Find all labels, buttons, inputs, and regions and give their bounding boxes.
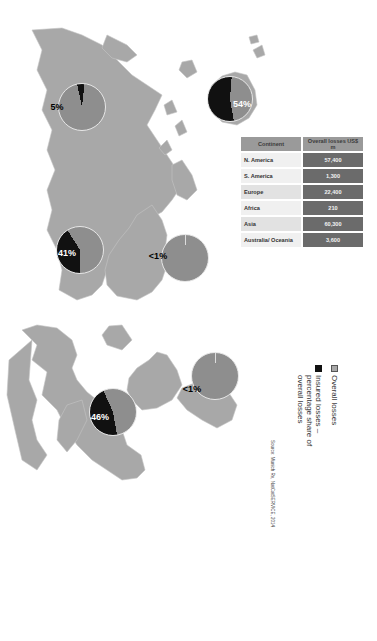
- table-row: Europe 22,400: [241, 185, 363, 199]
- source-note: Source: Munich Re, NatCatSERVICE, 2014: [270, 440, 275, 527]
- cell-continent: Africa: [241, 201, 301, 215]
- pie-label-north-america: 46%: [91, 412, 109, 422]
- landmass-south-america: [127, 352, 182, 410]
- cell-losses: 22,400: [303, 185, 363, 199]
- cell-continent: Australia/ Oceania: [241, 233, 301, 247]
- pie-asia: [58, 83, 106, 131]
- legend-insured-label: Insured losses – percentage share of ove…: [296, 375, 323, 455]
- pie-africa: [161, 234, 209, 282]
- table-header-row: Continent Overall losses US$ m: [241, 137, 363, 151]
- cell-continent: S. America: [241, 169, 301, 183]
- cell-losses: 57,400: [303, 153, 363, 167]
- pie-label-europe: 41%: [58, 248, 76, 258]
- header-continent: Continent: [241, 137, 301, 151]
- cell-continent: Europe: [241, 185, 301, 199]
- table-row: Africa 210: [241, 201, 363, 215]
- legend-item-insured: Insured losses – percentage share of ove…: [296, 365, 323, 455]
- table-row: S. America 1,300: [241, 169, 363, 183]
- cell-losses: 210: [303, 201, 363, 215]
- pie-label-asia: 5%: [50, 102, 63, 112]
- cell-losses: 60,300: [303, 217, 363, 231]
- table-row: Asia 60,300: [241, 217, 363, 231]
- pie-label-south-america: <1%: [183, 384, 201, 394]
- legend-overall-label: Overall losses: [330, 375, 339, 425]
- overall-losses-swatch-icon: [331, 365, 338, 372]
- pie-label-australia-oceania: 54%: [233, 99, 251, 109]
- world-map: [0, 0, 377, 641]
- pie-label-africa: <1%: [149, 251, 167, 261]
- map-figure: 46% <1% 41% <1% 5% 54% Continent Overall…: [0, 0, 377, 641]
- header-losses: Overall losses US$ m: [303, 137, 363, 151]
- insured-losses-swatch-icon: [315, 365, 322, 372]
- losses-table: Continent Overall losses US$ m N. Americ…: [239, 135, 365, 249]
- table-row: Australia/ Oceania 3,600: [241, 233, 363, 247]
- cell-continent: N. America: [241, 153, 301, 167]
- cell-losses: 3,600: [303, 233, 363, 247]
- cell-continent: Asia: [241, 217, 301, 231]
- losses-table-wrap: Continent Overall losses US$ m N. Americ…: [239, 135, 365, 231]
- table-row: N. America 57,400: [241, 153, 363, 167]
- cell-losses: 1,300: [303, 169, 363, 183]
- legend-item-overall: Overall losses: [330, 365, 339, 455]
- legend: Overall losses Insured losses – percenta…: [289, 365, 339, 455]
